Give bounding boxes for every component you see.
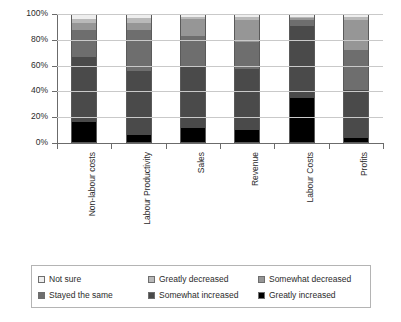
legend-item[interactable]: Stayed the same bbox=[38, 287, 148, 303]
legend-label: Stayed the same bbox=[49, 291, 113, 300]
gridline bbox=[57, 91, 383, 92]
gridline bbox=[57, 40, 383, 41]
plot-area bbox=[57, 14, 383, 143]
bar-revenue[interactable] bbox=[234, 14, 260, 143]
x-tick-mark bbox=[383, 144, 384, 149]
stacked-bar-chart: 0%20%40%60%80%100% Non-labour costsLabou… bbox=[0, 0, 401, 322]
x-tick-mark bbox=[57, 144, 58, 149]
y-tick-label: 100% bbox=[26, 9, 48, 18]
bar-labour-productivity[interactable] bbox=[126, 14, 152, 143]
legend-item[interactable]: Greatly increased bbox=[258, 287, 368, 303]
legend-swatch-icon bbox=[258, 292, 265, 299]
legend-swatch-icon bbox=[38, 292, 45, 299]
legend-label: Somewhat increased bbox=[159, 291, 238, 300]
bar-segment bbox=[71, 30, 97, 57]
legend-item[interactable]: Greatly decreased bbox=[148, 271, 258, 287]
y-tick-label: 20% bbox=[31, 112, 48, 121]
x-tick-mark bbox=[274, 144, 275, 149]
y-tick-mark bbox=[52, 14, 57, 15]
x-category-label: Profits bbox=[360, 152, 369, 176]
y-tick-label: 80% bbox=[31, 35, 48, 44]
gridline bbox=[57, 14, 383, 15]
bar-segment bbox=[343, 20, 369, 50]
legend-item[interactable]: Somewhat increased bbox=[148, 287, 258, 303]
bar-segment bbox=[71, 122, 97, 143]
legend-label: Greatly decreased bbox=[159, 275, 228, 284]
bar-profits[interactable] bbox=[343, 14, 369, 143]
y-tick-mark bbox=[52, 66, 57, 67]
x-tick-mark bbox=[329, 144, 330, 149]
legend-swatch-icon bbox=[258, 276, 265, 283]
legend-swatch-icon bbox=[148, 292, 155, 299]
bar-segment bbox=[234, 130, 260, 143]
legend-swatch-icon bbox=[38, 276, 45, 283]
bar-segment bbox=[126, 71, 152, 136]
bar-segment bbox=[343, 138, 369, 143]
x-tick-mark bbox=[220, 144, 221, 149]
bar-non-labour-costs[interactable] bbox=[71, 14, 97, 143]
bar-sales[interactable] bbox=[180, 14, 206, 143]
y-tick-mark bbox=[52, 40, 57, 41]
gridline bbox=[57, 66, 383, 67]
y-tick-mark bbox=[52, 91, 57, 92]
legend-item[interactable]: Somewhat decreased bbox=[258, 271, 368, 287]
y-tick-label: 60% bbox=[31, 61, 48, 70]
bar-segment bbox=[343, 50, 369, 90]
x-tick-mark bbox=[111, 144, 112, 149]
legend-label: Somewhat decreased bbox=[269, 275, 351, 284]
bar-segment bbox=[289, 98, 315, 143]
bar-segment bbox=[126, 30, 152, 71]
bar-segment bbox=[180, 19, 206, 36]
bar-segment bbox=[343, 90, 369, 138]
chart-legend: Not sureGreatly decreasedSomewhat decrea… bbox=[31, 265, 371, 308]
x-tick-mark bbox=[166, 144, 167, 149]
bar-segment bbox=[180, 128, 206, 143]
legend-label: Not sure bbox=[49, 275, 81, 284]
legend-label: Greatly increased bbox=[269, 291, 336, 300]
y-tick-mark bbox=[52, 117, 57, 118]
x-category-label: Revenue bbox=[251, 152, 260, 186]
x-category-label: Non-labour costs bbox=[88, 152, 97, 216]
y-tick-label: 40% bbox=[31, 86, 48, 95]
bar-segment bbox=[234, 69, 260, 130]
x-category-label: Labour Productivity bbox=[143, 152, 152, 225]
legend-swatch-icon bbox=[148, 276, 155, 283]
bar-labour-costs[interactable] bbox=[289, 14, 315, 143]
bar-segment bbox=[289, 26, 315, 98]
x-category-label: Labour Costs bbox=[306, 152, 315, 203]
bar-segment bbox=[126, 135, 152, 143]
legend-item[interactable]: Not sure bbox=[38, 271, 148, 287]
y-tick-label: 0% bbox=[36, 138, 48, 147]
x-category-label: Sales bbox=[197, 152, 206, 173]
bar-segment bbox=[180, 67, 206, 128]
gridline bbox=[57, 117, 383, 118]
